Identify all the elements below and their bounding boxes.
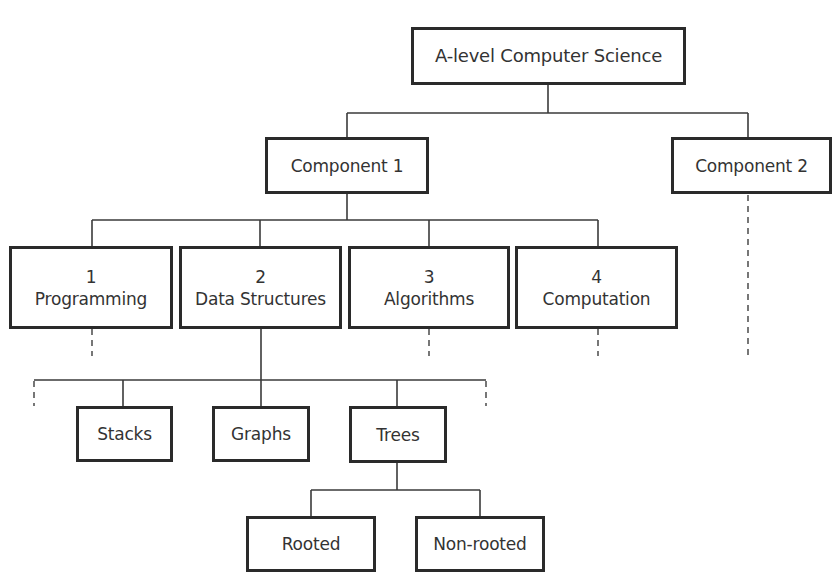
node-stacks: Stacks xyxy=(76,406,173,462)
hierarchy-chart: A-level Computer Science Component 1 Com… xyxy=(0,0,840,588)
node-topic-data-structures: 2 Data Structures xyxy=(179,246,342,329)
node-topic-computation: 4 Computation xyxy=(515,246,678,329)
node-rooted: Rooted xyxy=(246,516,376,572)
node-component-2: Component 2 xyxy=(671,137,832,194)
node-label: Non-rooted xyxy=(433,533,526,555)
node-graphs: Graphs xyxy=(212,406,310,462)
node-root: A-level Computer Science xyxy=(411,27,686,85)
node-component-1: Component 1 xyxy=(265,137,429,194)
node-topic-algorithms: 3 Algorithms xyxy=(348,246,510,329)
node-non-rooted: Non-rooted xyxy=(415,516,545,572)
node-label: Data Structures xyxy=(195,288,326,310)
node-number: 3 xyxy=(424,266,435,288)
node-label: Computation xyxy=(543,288,651,310)
node-label: Programming xyxy=(35,288,147,310)
node-label: Component 1 xyxy=(291,155,404,177)
node-number: 2 xyxy=(255,266,266,288)
node-number: 4 xyxy=(591,266,602,288)
node-label: Stacks xyxy=(97,423,152,445)
node-trees: Trees xyxy=(349,406,447,463)
node-label: Component 2 xyxy=(695,155,808,177)
node-label: A-level Computer Science xyxy=(435,45,662,67)
node-topic-programming: 1 Programming xyxy=(9,246,173,329)
node-label: Graphs xyxy=(231,423,291,445)
node-number: 1 xyxy=(86,266,97,288)
node-label: Trees xyxy=(376,424,419,446)
node-label: Rooted xyxy=(282,533,341,555)
node-label: Algorithms xyxy=(384,288,474,310)
